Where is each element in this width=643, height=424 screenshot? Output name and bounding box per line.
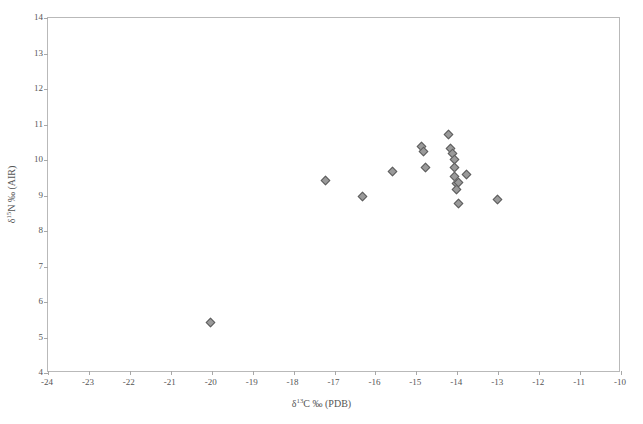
x-tick-label: -15 (409, 377, 421, 388)
y-tick-label: 4 (23, 367, 43, 378)
y-axis-title-superscript: 15 (5, 212, 12, 219)
y-tick (44, 267, 48, 268)
y-tick-label: 7 (23, 260, 43, 271)
y-tick-label: 8 (23, 225, 43, 236)
x-tick-label: -16 (368, 377, 380, 388)
y-tick (44, 196, 48, 197)
y-axis-title-post: N ‰ (AIR) (7, 166, 18, 212)
x-tick (171, 371, 172, 375)
plot-area (47, 17, 620, 372)
x-tick-label: -13 (491, 377, 503, 388)
y-tick-label: 5 (23, 331, 43, 342)
x-tick (212, 371, 213, 375)
x-tick (130, 371, 131, 375)
x-tick-label: -21 (164, 377, 176, 388)
x-tick-label: -10 (614, 377, 626, 388)
x-axis-title: δ13C ‰ (PDB) (0, 398, 643, 409)
y-tick-label: 6 (23, 296, 43, 307)
y-tick-label: 11 (23, 118, 43, 129)
y-tick-label: 13 (23, 47, 43, 58)
y-tick-label: 10 (23, 154, 43, 165)
x-tick (48, 371, 49, 375)
x-tick-label: -22 (123, 377, 135, 388)
y-tick (44, 18, 48, 19)
y-tick (44, 302, 48, 303)
y-tick (44, 89, 48, 90)
y-tick-label: 12 (23, 83, 43, 94)
x-tick (457, 371, 458, 375)
y-tick (44, 160, 48, 161)
y-tick (44, 231, 48, 232)
y-tick-label: 9 (23, 189, 43, 200)
x-tick (416, 371, 417, 375)
x-tick (335, 371, 336, 375)
x-tick (539, 371, 540, 375)
y-tick-label: 14 (23, 12, 43, 23)
y-axis-title-pre: δ (7, 219, 18, 224)
x-tick-label: -19 (246, 377, 258, 388)
x-tick-label: -23 (82, 377, 94, 388)
y-tick (44, 125, 48, 126)
x-tick-label: -18 (287, 377, 299, 388)
scatter-chart: -24-23-22-21-20-19-18-17-16-15-14-13-12-… (0, 0, 643, 424)
x-axis-title-post: C ‰ (PDB) (303, 398, 351, 409)
x-tick (294, 371, 295, 375)
x-tick-label: -24 (41, 377, 53, 388)
x-tick (498, 371, 499, 375)
x-tick-label: -14 (450, 377, 462, 388)
y-tick (44, 54, 48, 55)
x-tick (580, 371, 581, 375)
x-tick (89, 371, 90, 375)
x-tick-label: -17 (328, 377, 340, 388)
x-tick (253, 371, 254, 375)
y-tick (44, 338, 48, 339)
x-tick (375, 371, 376, 375)
y-axis-title: δ15N ‰ (AIR) (0, 0, 24, 389)
y-tick (44, 373, 48, 374)
x-tick-label: -12 (532, 377, 544, 388)
x-tick (621, 371, 622, 375)
x-tick-label: -11 (573, 377, 585, 388)
x-tick-label: -20 (205, 377, 217, 388)
